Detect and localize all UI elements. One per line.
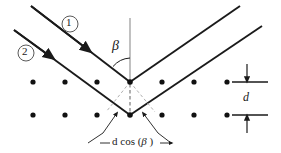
path-difference-close-paren: ) bbox=[150, 135, 154, 147]
lattice-dot bbox=[224, 112, 229, 117]
caption-leader-left bbox=[88, 133, 103, 143]
incident-ray-2-arrowhead bbox=[14, 30, 52, 58]
lattice-dot bbox=[62, 112, 67, 117]
lattice-dot bbox=[159, 112, 164, 117]
beta-angle-label: β bbox=[112, 38, 119, 54]
lattice-dot bbox=[191, 112, 196, 117]
path-difference-arrow-left bbox=[103, 113, 117, 133]
path-difference-cos: cos bbox=[120, 135, 135, 147]
incident-ray-1-arrowhead bbox=[31, 6, 89, 51]
caption-leader-right bbox=[158, 133, 171, 143]
bragg-diffraction-figure: 1 2 β d d cos (β ) bbox=[0, 0, 281, 153]
lattice-dot bbox=[94, 112, 99, 117]
lattice-dot-upper-vertex bbox=[127, 79, 133, 85]
dashed-construction-left bbox=[106, 82, 130, 112]
diagram-canvas bbox=[0, 0, 281, 153]
lattice-dot bbox=[224, 79, 229, 84]
lattice-dot bbox=[94, 79, 99, 84]
lattice-dot bbox=[62, 79, 67, 84]
lattice-dot bbox=[30, 79, 35, 84]
reflected-ray-1 bbox=[130, 6, 240, 82]
path-difference-label: d cos (β ) bbox=[112, 135, 153, 147]
ray-2-label: 2 bbox=[22, 45, 28, 57]
lattice-dot-lower-vertex bbox=[127, 112, 133, 118]
path-difference-arrow-right bbox=[143, 113, 158, 133]
lattice-dot bbox=[191, 79, 196, 84]
d-spacing-label: d bbox=[243, 90, 249, 105]
beta-angle-arc bbox=[113, 58, 130, 67]
ray-1-label: 1 bbox=[66, 16, 72, 28]
lattice-dot bbox=[30, 112, 35, 117]
lattice-dot bbox=[159, 79, 164, 84]
